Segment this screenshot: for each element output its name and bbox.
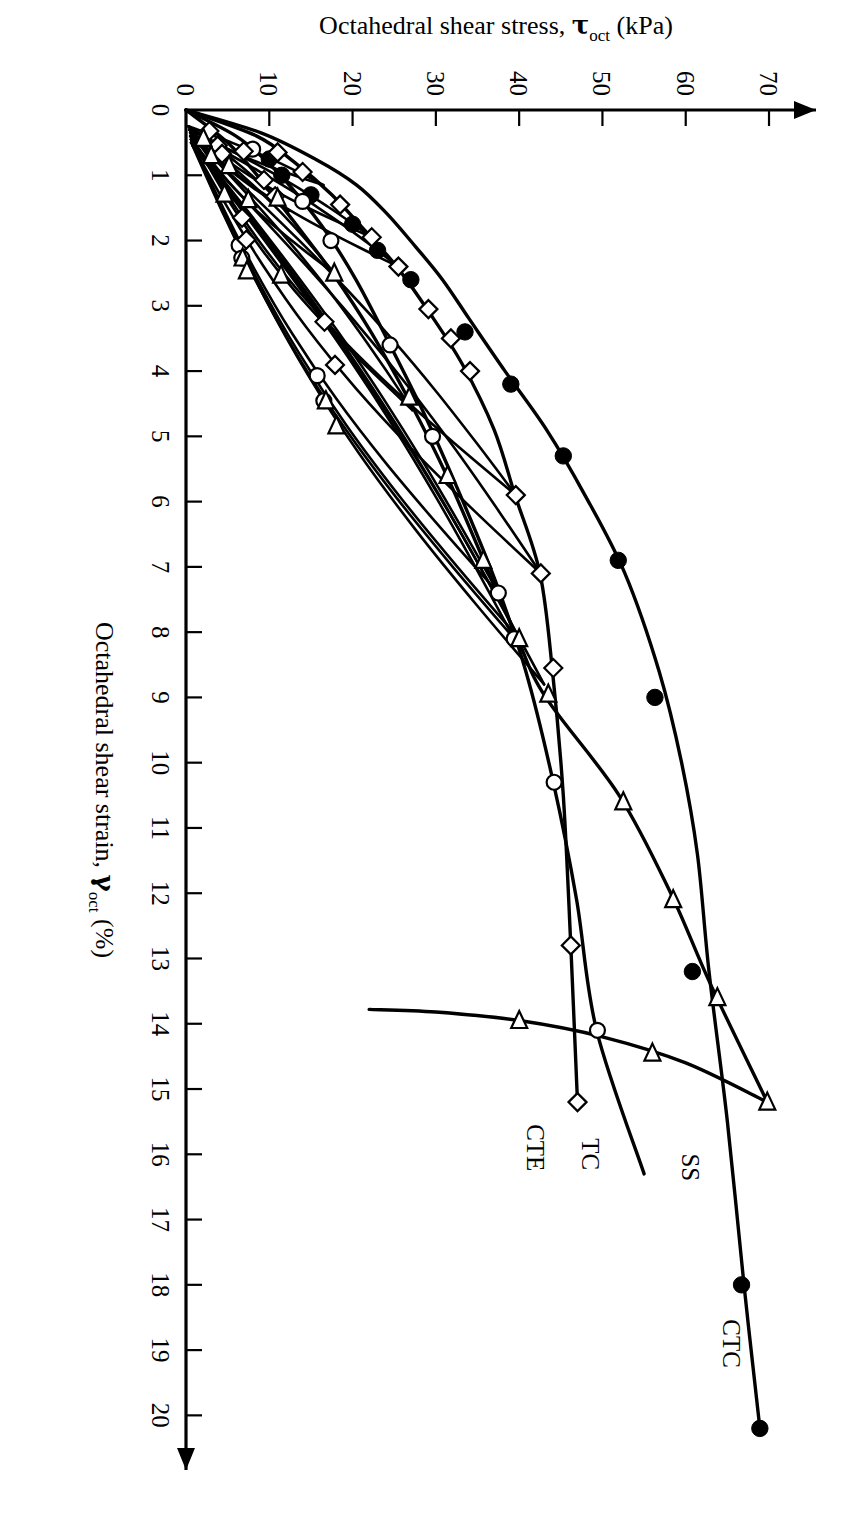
y-tick-label: 0 (172, 84, 199, 97)
marker-open-circle (491, 585, 506, 600)
y-axis-arrow (794, 101, 816, 119)
rotated-plot-wrapper: 01234567891011121314151617181920 0102030… (0, 0, 856, 1522)
x-tick-label: 17 (147, 1207, 174, 1232)
x-tick-label: 8 (147, 626, 174, 639)
x-tick-label: 0 (147, 104, 174, 117)
x-tick-label: 12 (147, 881, 174, 906)
data-curves-group (186, 110, 767, 1428)
marker-filled-circle (555, 448, 571, 464)
marker-open-circle (295, 194, 310, 209)
x-tick-label: 4 (147, 365, 174, 378)
marker-open-triangle (665, 890, 681, 907)
x-tick-label: 9 (147, 691, 174, 704)
y-tick-label: 60 (672, 71, 699, 96)
x-tick-label: 1 (147, 169, 174, 182)
marker-filled-circle (344, 216, 360, 232)
y-tick-label: 30 (422, 71, 449, 96)
y-axis-tick-labels: 010203040506070 (172, 71, 782, 96)
series-label-cte: CTE (522, 1124, 549, 1171)
x-tick-label: 11 (147, 816, 174, 840)
x-tick-label: 14 (147, 1011, 174, 1037)
x-tick-label: 5 (147, 430, 174, 443)
x-tick-label: 16 (147, 1142, 174, 1167)
chart-svg: 01234567891011121314151617181920 0102030… (0, 0, 856, 1522)
marker-open-circle (425, 429, 440, 444)
x-tick-label: 13 (147, 946, 174, 971)
marker-filled-circle (752, 1420, 768, 1436)
x-axis-ticks (186, 175, 202, 1415)
marker-open-circle (547, 775, 562, 790)
x-axis-tick-labels: 01234567891011121314151617181920 (147, 104, 174, 1428)
series-annotations-group: CTCSSTCCTE (522, 1124, 745, 1368)
x-tick-label: 18 (147, 1272, 174, 1297)
markers-tc (200, 122, 586, 1111)
marker-open-circle (590, 1023, 605, 1038)
x-tick-label: 19 (147, 1338, 174, 1363)
x-tick-label: 20 (147, 1403, 174, 1428)
y-tick-label: 10 (255, 71, 282, 96)
figure-root: 01234567891011121314151617181920 0102030… (0, 0, 856, 1522)
marker-open-diamond (569, 1093, 587, 1111)
series-label-ctc: CTC (718, 1319, 745, 1368)
marker-filled-circle (647, 689, 663, 705)
x-tick-label: 15 (147, 1077, 174, 1102)
marker-filled-circle (684, 963, 700, 979)
marker-filled-circle (610, 552, 626, 568)
x-axis-title: Octahedral shear strain, γoct (%) (85, 622, 120, 958)
axes-group: 01234567891011121314151617181920 0102030… (147, 71, 816, 1470)
final-unload-curve (369, 1009, 767, 1102)
x-tick-label: 10 (147, 750, 174, 775)
series-label-tc: TC (577, 1138, 604, 1170)
marker-filled-circle (274, 167, 290, 183)
series-label-ss: SS (677, 1153, 704, 1181)
marker-filled-circle (503, 376, 519, 392)
marker-open-circle (323, 233, 338, 248)
y-axis-title: Octahedral shear stress, τoct (kPa) (319, 10, 673, 45)
y-tick-label: 70 (755, 71, 782, 96)
marker-open-diamond (544, 659, 562, 677)
marker-open-circle (383, 337, 398, 352)
marker-filled-circle (733, 1277, 749, 1293)
y-tick-label: 20 (339, 71, 366, 96)
x-tick-label: 3 (147, 300, 174, 313)
marker-filled-circle (403, 271, 419, 287)
marker-open-circle (310, 368, 325, 383)
y-tick-label: 50 (588, 71, 615, 96)
y-tick-label: 40 (505, 71, 532, 96)
markers-ctc (261, 151, 768, 1437)
y-axis-ticks (269, 110, 769, 126)
marker-open-diamond (562, 936, 580, 954)
x-tick-label: 2 (147, 234, 174, 247)
x-tick-label: 6 (147, 495, 174, 508)
x-tick-label: 7 (147, 561, 174, 574)
markers-cte (195, 129, 775, 1110)
x-axis-arrow (177, 1448, 195, 1470)
